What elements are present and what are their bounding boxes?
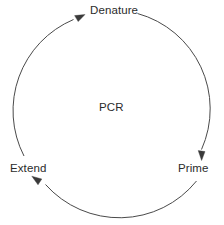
pcr-cycle-diagram: Denature Prime Extend PCR (0, 0, 224, 225)
arrowhead-prime-icon (198, 151, 205, 161)
arrowhead-denature-icon (75, 15, 85, 22)
node-label-prime: Prime (178, 162, 209, 174)
diagram-center-label: PCR (99, 101, 124, 113)
arc-prime-to-extend (46, 181, 197, 218)
arc-extend-to-denature (13, 20, 73, 157)
node-label-extend: Extend (10, 162, 46, 174)
arc-denature-to-prime (138, 14, 211, 150)
node-label-denature: Denature (90, 4, 138, 16)
arrowhead-extend-icon (32, 176, 42, 185)
